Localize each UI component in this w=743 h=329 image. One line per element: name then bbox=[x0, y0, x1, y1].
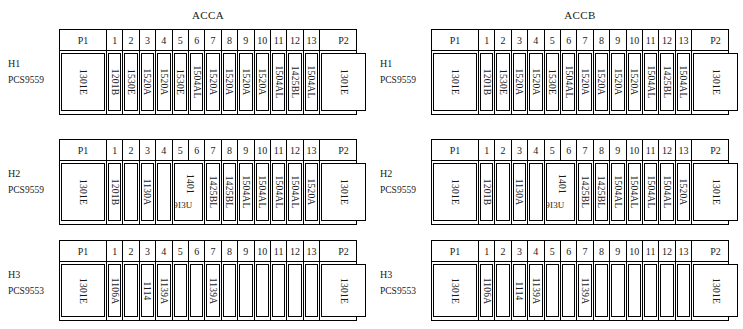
slot-module-1: 1106A bbox=[107, 262, 123, 320]
slot-module-p1: 1301E bbox=[60, 262, 107, 320]
slot-header-p1: P1 bbox=[60, 140, 107, 160]
slot-header-1: 1 bbox=[107, 140, 123, 160]
chassis-label-line2: PCS9559 bbox=[380, 182, 430, 199]
slot-module-3: 1130A bbox=[512, 161, 528, 224]
slot-module-7: 1425BL bbox=[205, 161, 221, 224]
slot-header-13: 13 bbox=[676, 241, 692, 261]
slot-module-4: 1139A bbox=[156, 262, 172, 320]
slot-module-11: 1504AL bbox=[643, 161, 659, 224]
slot-header-7: 7 bbox=[577, 140, 593, 160]
slot-header-13: 13 bbox=[304, 241, 320, 261]
slot-module-11: 1504AL bbox=[643, 51, 659, 114]
slot-header-2: 2 bbox=[123, 140, 139, 160]
slot-header-8: 8 bbox=[594, 140, 610, 160]
slot-header-row: P1 1 2 3 4 5 6 7 8 9 10 11 12 13 P2 bbox=[59, 240, 357, 261]
chassis-label-accb-h3: H3 PCS9553 bbox=[380, 266, 430, 300]
slot-module-12 bbox=[659, 262, 675, 320]
slot-header-2: 2 bbox=[495, 241, 511, 261]
slot-module-11: 1504AL bbox=[271, 51, 287, 114]
slot-module-13: 1504AL bbox=[304, 51, 320, 114]
slot-header-7: 7 bbox=[577, 241, 593, 261]
slot-header-11: 11 bbox=[271, 241, 287, 261]
chassis-label-acca-h2: H2 PCS9559 bbox=[8, 165, 58, 199]
slot-header-10: 10 bbox=[255, 30, 271, 50]
slot-header-9: 9 bbox=[238, 140, 254, 160]
slot-header-13: 13 bbox=[304, 140, 320, 160]
slot-module-4 bbox=[528, 161, 544, 224]
chassis-label-acca-h1: H1 PCS9559 bbox=[8, 55, 58, 89]
slot-module-row: 1301E 1201B 1530E 1520A 1520A 1530E 1504… bbox=[431, 50, 729, 115]
slot-header-5: 5 bbox=[545, 30, 561, 50]
chassis-accb-h2: H2 PCS9559 P1 1 2 3 4 5 6 7 8 9 10 11 12… bbox=[431, 139, 729, 225]
slot-header-row: P1 1 2 3 4 5 6 7 8 9 10 11 12 13 P2 bbox=[59, 29, 357, 50]
slot-header-3: 3 bbox=[512, 241, 528, 261]
slot-header-9: 9 bbox=[610, 30, 626, 50]
chassis-accb-h1: H1 PCS9559 P1 1 2 3 4 5 6 7 8 9 10 11 12… bbox=[431, 29, 729, 115]
slot-module-2: 1530E bbox=[123, 51, 139, 114]
panel-title-accb: ACCB bbox=[431, 9, 729, 21]
slot-module-9 bbox=[610, 262, 626, 320]
chassis-label-line2: PCS9553 bbox=[380, 283, 430, 300]
slot-header-12: 12 bbox=[659, 241, 675, 261]
slot-header-10: 10 bbox=[627, 30, 643, 50]
slot-header-1: 1 bbox=[107, 241, 123, 261]
slot-header-p2: P2 bbox=[320, 30, 367, 50]
slot-module-13 bbox=[304, 262, 320, 320]
slot-header-6: 6 bbox=[189, 30, 205, 50]
slot-header-p1: P1 bbox=[432, 30, 479, 50]
slot-module-9: 1504AL bbox=[238, 161, 254, 224]
chassis-label-acca-h3: H3 PCS9553 bbox=[8, 266, 58, 300]
chassis-label-line2: PCS9559 bbox=[8, 182, 58, 199]
slot-module-2 bbox=[123, 262, 139, 320]
chassis-label-line1: H1 bbox=[8, 55, 58, 72]
slot-module-10: 1504AL bbox=[255, 161, 271, 224]
slot-module-5: 1530E bbox=[545, 51, 561, 114]
slot-module-7: 1139A bbox=[205, 262, 221, 320]
slot-header-3: 3 bbox=[140, 30, 156, 50]
slot-header-6: 6 bbox=[561, 140, 577, 160]
slot-module-p2: 1301E bbox=[320, 51, 367, 114]
slot-header-p2: P2 bbox=[692, 30, 739, 50]
slot-header-9: 9 bbox=[610, 241, 626, 261]
slot-header-12: 12 bbox=[659, 30, 675, 50]
slot-module-7: 1520A bbox=[577, 51, 593, 114]
slot-header-2: 2 bbox=[495, 30, 511, 50]
slot-header-10: 10 bbox=[627, 140, 643, 160]
slot-module-3: 1520A bbox=[140, 51, 156, 114]
slot-module-9 bbox=[238, 262, 254, 320]
slot-module-p2: 1301E bbox=[692, 51, 739, 114]
slot-header-7: 7 bbox=[205, 241, 221, 261]
slot-header-p2: P2 bbox=[692, 140, 739, 160]
slot-module-2 bbox=[495, 262, 511, 320]
slot-header-p1: P1 bbox=[432, 241, 479, 261]
slot-header-2: 2 bbox=[123, 30, 139, 50]
slot-header-11: 11 bbox=[271, 140, 287, 160]
slot-header-12: 12 bbox=[287, 30, 303, 50]
slot-module-2 bbox=[495, 161, 511, 224]
slot-module-8: 1520A bbox=[594, 51, 610, 114]
chassis-label-line2: PCS9559 bbox=[8, 72, 58, 89]
slot-header-10: 10 bbox=[627, 241, 643, 261]
merged-label-upper: 1401 bbox=[557, 174, 567, 194]
slot-module-9: 1520A bbox=[238, 51, 254, 114]
slot-header-10: 10 bbox=[255, 241, 271, 261]
slot-header-row: P1 1 2 3 4 5 6 7 8 9 10 11 12 13 P2 bbox=[59, 139, 357, 160]
slot-module-row: 1301E 1201B 1530E 1520A 1520A 1530E 1504… bbox=[59, 50, 357, 115]
slot-module-3: 1114 bbox=[512, 262, 528, 320]
slot-header-11: 11 bbox=[271, 30, 287, 50]
chassis-accb-h3: H3 PCS9553 P1 1 2 3 4 5 6 7 8 9 10 11 12… bbox=[431, 240, 729, 321]
slot-header-8: 8 bbox=[594, 241, 610, 261]
slot-module-10: 1520A bbox=[255, 51, 271, 114]
slot-module-12 bbox=[287, 262, 303, 320]
slot-module-11 bbox=[271, 262, 287, 320]
slot-module-10 bbox=[255, 262, 271, 320]
slot-header-1: 1 bbox=[107, 30, 123, 50]
slot-header-1: 1 bbox=[479, 241, 495, 261]
slot-header-p1: P1 bbox=[60, 30, 107, 50]
slot-header-7: 7 bbox=[577, 30, 593, 50]
slot-module-6 bbox=[189, 262, 205, 320]
slot-module-5: 1530E bbox=[173, 51, 189, 114]
slot-header-1: 1 bbox=[479, 30, 495, 50]
slot-header-2: 2 bbox=[123, 241, 139, 261]
slot-module-6: 1504AL bbox=[561, 51, 577, 114]
